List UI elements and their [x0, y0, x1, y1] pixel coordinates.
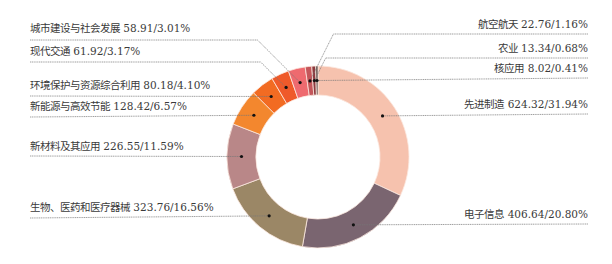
leader-line: [30, 115, 254, 117]
leader-line: [30, 156, 242, 157]
leader-dot: [268, 214, 271, 217]
slice-1: [302, 183, 400, 248]
slice-label: 城市建设与社会发展 58.91/3.01%: [30, 22, 190, 34]
donut-chart-svg: [0, 0, 612, 264]
slice-0: [318, 66, 409, 195]
slice-label: 农业 13.34/0.68%: [498, 42, 588, 54]
leader-dot: [240, 155, 243, 158]
slice-2: [233, 179, 308, 247]
slice-label: 新材料及其应用 226.55/11.59%: [30, 140, 184, 152]
leader-dot: [270, 95, 273, 98]
slice-label: 电子信息 406.64/20.80%: [464, 208, 588, 220]
leader-dot: [352, 223, 355, 226]
leader-line: [383, 114, 588, 116]
leader-dot: [299, 81, 302, 84]
slice-label: 先进制造 624.32/31.94%: [464, 98, 588, 110]
slice-label: 核应用 8.02/0.41%: [494, 62, 588, 74]
leader-dot: [381, 114, 384, 117]
leader-dot: [285, 86, 288, 89]
leader-line: [353, 224, 588, 225]
donut-slices: [227, 66, 409, 248]
slice-label: 环境保护与资源综合利用 80.18/4.10%: [30, 79, 210, 91]
leader-dot: [308, 79, 311, 82]
leader-line: [30, 216, 269, 218]
leader-dot: [252, 114, 255, 117]
leader-dot: [315, 79, 318, 82]
slice-label: 生物、医药和医疗器械 323.76/16.56%: [30, 201, 214, 213]
slice-label: 新能源与高效节能 128.42/6.57%: [30, 100, 187, 112]
slice-label: 现代交通 61.92/3.17%: [30, 45, 140, 57]
slice-label: 航空航天 22.76/1.16%: [478, 18, 588, 30]
